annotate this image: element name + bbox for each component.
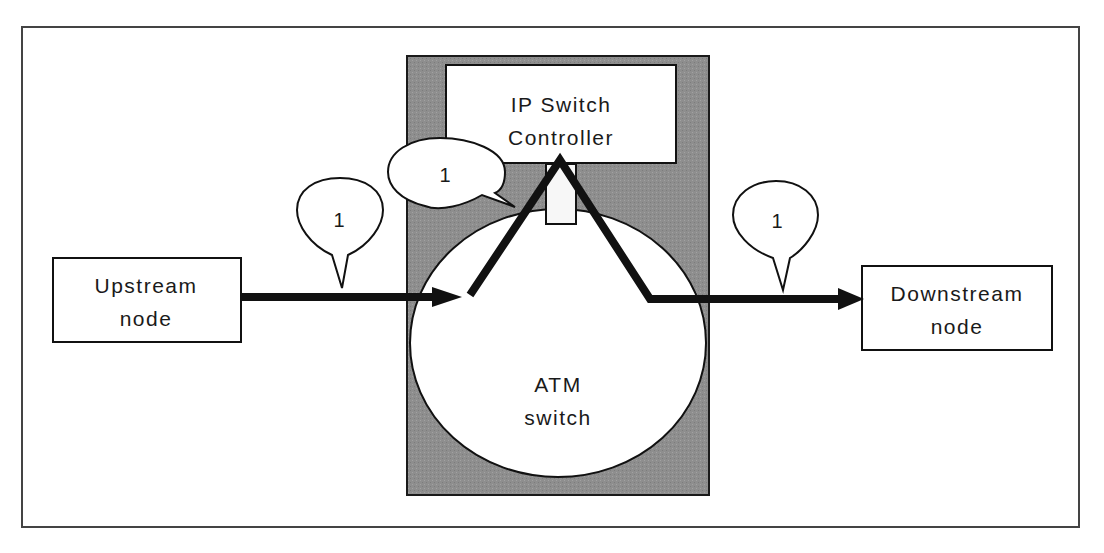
controller-label-line2: Controller [508, 126, 614, 149]
diagram-canvas: IP Switch Controller Upstream node Downs… [0, 0, 1104, 553]
upstream-node[interactable]: Upstream node [53, 258, 241, 342]
downstream-node[interactable]: Downstream node [862, 266, 1052, 350]
atm-switch-label-line1: ATM [534, 373, 581, 396]
controller-label-line1: IP Switch [511, 93, 612, 116]
downstream-label-line1: Downstream [891, 282, 1024, 305]
callout-controller-label: 1 [439, 164, 450, 186]
downstream-label-line2: node [931, 315, 984, 338]
upstream-label-line1: Upstream [94, 274, 197, 297]
callout-upstream-label: 1 [333, 209, 344, 231]
upstream-label-line2: node [120, 307, 173, 330]
callout-downstream-label: 1 [771, 210, 782, 232]
atm-switch-ellipse [410, 209, 706, 477]
atm-switch-label-line2: switch [524, 406, 591, 429]
